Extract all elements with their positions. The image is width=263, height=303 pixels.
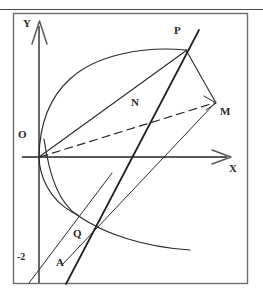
label-point-a: A	[56, 257, 64, 268]
label-origin-o: O	[18, 129, 27, 140]
segment-PM	[186, 50, 216, 103]
segment-OM-dashed	[40, 103, 214, 157]
label-point-q: Q	[73, 228, 82, 239]
figure-frame	[14, 14, 248, 284]
label-point-p: P	[174, 25, 181, 36]
figure-canvas: Y X O P N M Q A -2	[0, 0, 263, 303]
parabola-lower-curve	[39, 157, 78, 215]
geometry-diagram	[0, 0, 263, 303]
label-point-n: N	[131, 97, 139, 108]
label-y-axis: Y	[23, 18, 31, 29]
curve-group	[39, 49, 190, 250]
label-y-intercept-neg-two: -2	[17, 252, 25, 262]
label-x-axis: X	[229, 163, 237, 174]
label-point-m: M	[220, 106, 230, 117]
segment-OP	[39, 50, 187, 157]
axis-group	[22, 21, 231, 283]
